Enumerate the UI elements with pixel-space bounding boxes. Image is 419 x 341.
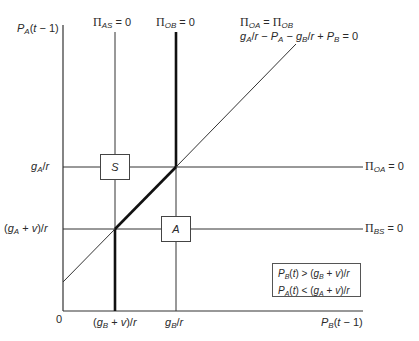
region-s-label: S xyxy=(111,161,118,173)
x-tick-gb-v-r: (gB + v)/r xyxy=(93,316,137,332)
y-tick-ga-v-r: (gA + v)/r xyxy=(4,222,48,238)
pi-ob-label: ΠOB = 0 xyxy=(156,16,195,32)
pi-as-label: ΠAS = 0 xyxy=(93,16,131,32)
diagonal-line-upper xyxy=(176,44,296,167)
condition-box: PB(t) > (gB + v)/r PA(t) < (gA + v)/r xyxy=(272,263,361,297)
condition-line-1: PB(t) > (gB + v)/r xyxy=(278,267,355,284)
x-axis-label: PB(t − 1) xyxy=(321,316,363,332)
diagonal-line-lower xyxy=(63,229,115,282)
pi-oa-label: ΠOA = 0 xyxy=(365,160,404,176)
y-axis-label: PA(t − 1) xyxy=(17,22,59,38)
pi-bs-label: ΠBS = 0 xyxy=(365,222,403,238)
origin-label: 0 xyxy=(56,313,62,326)
region-s-box: S xyxy=(100,154,130,180)
region-a-label: A xyxy=(172,223,179,235)
region-a-box: A xyxy=(161,216,191,242)
diagonal-label-line2: gA/r − PA − gB/r + PB = 0 xyxy=(240,30,358,46)
y-tick-ga-r: gA/r xyxy=(31,160,49,176)
condition-line-2: PA(t) < (gA + v)/r xyxy=(278,284,355,301)
x-tick-gb-r: gB/r xyxy=(165,316,183,332)
